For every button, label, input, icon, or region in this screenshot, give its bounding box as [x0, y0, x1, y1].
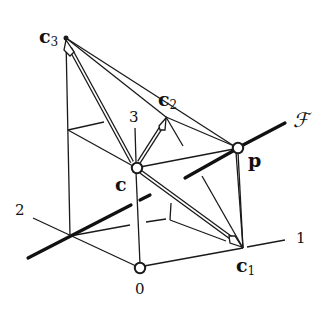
edge-c3-c2 — [66, 38, 166, 117]
label-c1: c1 — [236, 256, 255, 277]
label-c2: c2 — [158, 90, 177, 111]
cube-edge-c2-back — [166, 117, 183, 146]
axis-1-line — [247, 240, 285, 247]
arrows — [64, 40, 242, 247]
arrowhead-c1-icon — [229, 236, 242, 247]
cube-edge-top-back — [68, 122, 104, 130]
line-F — [28, 123, 285, 258]
cube-edge-left — [66, 40, 70, 236]
edge-c3-p — [66, 38, 234, 146]
label-axis-2: 2 — [15, 203, 25, 218]
label-origin: 0 — [135, 282, 145, 297]
label-axis-3: 3 — [129, 110, 139, 125]
cube-edge-hidden-vertical — [170, 203, 171, 220]
arrowhead-c2-icon — [159, 118, 166, 130]
point-c — [132, 163, 142, 173]
edge-c2-p — [166, 117, 234, 146]
label-axis-1: 1 — [296, 231, 306, 246]
point-origin — [135, 263, 145, 273]
edge-fan-c1 — [202, 176, 243, 248]
cube-edge-hidden-back — [146, 219, 166, 222]
axis-2-line — [33, 218, 136, 266]
point-c3 — [64, 36, 69, 41]
axis-3-line — [135, 128, 136, 162]
label-F: ℱ — [293, 110, 309, 130]
label-c: c — [115, 175, 127, 194]
point-p — [233, 143, 243, 153]
label-p: p — [248, 151, 261, 170]
cube-edge-c-origin — [136, 172, 140, 264]
cube-diagram — [0, 0, 330, 322]
edge-p-c1 — [236, 152, 243, 248]
label-c3: c3 — [39, 27, 58, 48]
cube-edge-origin-c1 — [144, 248, 243, 266]
